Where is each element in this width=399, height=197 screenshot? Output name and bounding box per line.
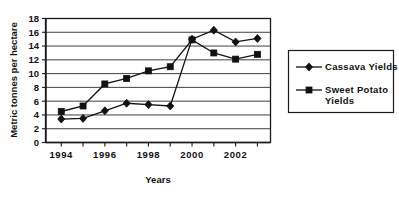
- y-tick-label: 12: [28, 54, 39, 65]
- data-point-marker: [233, 56, 239, 62]
- y-tick-label: 8: [34, 82, 39, 93]
- line-chart: Metric tonnes per hectare 02468101214161…: [0, 0, 399, 197]
- x-tick-label: 1998: [137, 149, 161, 160]
- data-point-marker: [80, 103, 86, 109]
- data-point-marker: [189, 37, 195, 43]
- y-tick-label: 14: [28, 40, 39, 51]
- data-point-marker: [211, 50, 217, 56]
- data-point-marker: [167, 64, 173, 70]
- data-point-marker: [145, 68, 151, 74]
- x-axis-title: Years: [145, 174, 170, 185]
- x-tick-label: 2002: [224, 149, 248, 160]
- x-tick-label: 1996: [93, 149, 117, 160]
- x-tick-label: 1994: [49, 149, 73, 160]
- x-tick-label: 2000: [180, 149, 204, 160]
- y-tick-label: 16: [28, 27, 39, 38]
- data-point-marker: [254, 51, 260, 57]
- legend-label: Yields: [325, 95, 354, 106]
- y-tick-label: 0: [34, 137, 39, 148]
- data-point-marker: [58, 109, 64, 115]
- y-tick-label: 2: [34, 123, 39, 134]
- legend-marker-square: [306, 87, 312, 93]
- y-axis-title: Metric tonnes per hectare: [8, 22, 19, 138]
- data-point-marker: [102, 81, 108, 87]
- y-tick-label: 6: [34, 96, 39, 107]
- chart-container: Metric tonnes per hectare 02468101214161…: [0, 0, 399, 197]
- y-tick-label: 10: [28, 68, 39, 79]
- legend-label: Sweet Potato: [325, 84, 388, 95]
- legend-label: Cassava Yields: [325, 61, 398, 72]
- data-point-marker: [124, 75, 130, 81]
- y-tick-label: 18: [28, 13, 39, 24]
- chart-legend: Cassava YieldsSweet PotatoYields: [289, 51, 398, 113]
- y-tick-label: 4: [34, 109, 40, 120]
